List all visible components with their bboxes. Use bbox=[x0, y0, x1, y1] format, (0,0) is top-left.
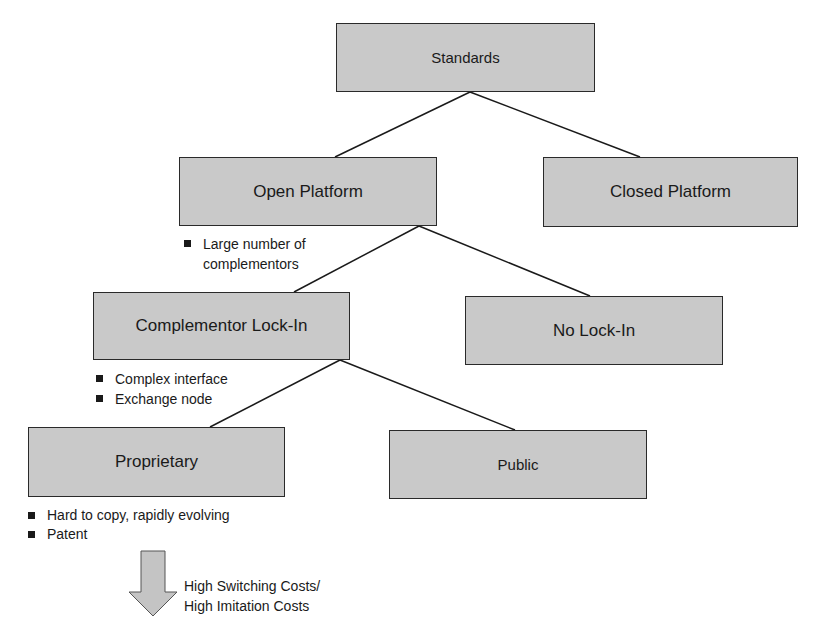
diagram-canvas: Standards Open Platform Closed Platform … bbox=[0, 0, 815, 637]
edge-complementor-public bbox=[340, 360, 515, 430]
outcome-line-1: High Switching Costs/ bbox=[184, 576, 320, 596]
node-standards-label: Standards bbox=[431, 49, 499, 66]
note-item: Exchange node bbox=[96, 389, 228, 409]
bullet-square-icon bbox=[96, 395, 103, 402]
node-closed-platform: Closed Platform bbox=[543, 157, 798, 227]
node-proprietary: Proprietary bbox=[28, 427, 285, 497]
note-item-continuation: complementors bbox=[184, 254, 306, 274]
edge-standards-closed bbox=[470, 92, 640, 157]
node-public-label: Public bbox=[498, 456, 539, 473]
note-item: Hard to copy, rapidly evolving bbox=[28, 506, 230, 525]
complementor-lockin-notes: Complex interface Exchange node bbox=[96, 369, 228, 409]
bullet-square-icon bbox=[28, 531, 35, 538]
node-no-lockin: No Lock-In bbox=[465, 296, 723, 365]
open-platform-notes: Large number of complementors bbox=[184, 234, 306, 274]
node-standards: Standards bbox=[336, 23, 595, 92]
note-item: Patent bbox=[28, 525, 230, 544]
bullet-square-icon bbox=[96, 375, 103, 382]
edge-complementor-proprietary bbox=[210, 360, 340, 427]
node-public: Public bbox=[389, 430, 647, 499]
node-proprietary-label: Proprietary bbox=[115, 452, 198, 472]
node-open-platform-label: Open Platform bbox=[253, 182, 363, 202]
node-closed-platform-label: Closed Platform bbox=[610, 182, 731, 202]
edge-open-complementor bbox=[294, 226, 419, 292]
node-complementor-lockin: Complementor Lock-In bbox=[93, 292, 350, 360]
edge-open-nolockin bbox=[419, 226, 590, 296]
edge-standards-open bbox=[335, 92, 470, 157]
bullet-square-icon bbox=[28, 512, 35, 519]
bullet-square-icon bbox=[184, 240, 191, 247]
node-complementor-lockin-label: Complementor Lock-In bbox=[136, 316, 308, 336]
down-arrow-icon bbox=[129, 551, 177, 616]
proprietary-notes: Hard to copy, rapidly evolving Patent bbox=[28, 506, 230, 544]
node-open-platform: Open Platform bbox=[179, 157, 437, 226]
note-item: Large number of bbox=[184, 234, 306, 254]
outcome-line-2: High Imitation Costs bbox=[184, 596, 320, 616]
node-no-lockin-label: No Lock-In bbox=[553, 321, 635, 341]
note-item: Complex interface bbox=[96, 369, 228, 389]
outcome-label: High Switching Costs/ High Imitation Cos… bbox=[184, 576, 320, 616]
